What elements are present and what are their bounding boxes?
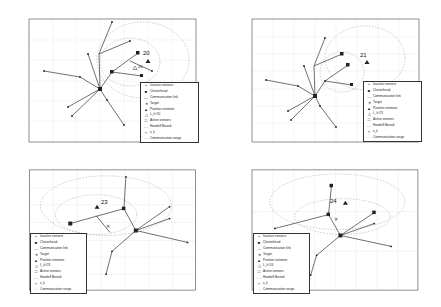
legend-item: ···Communication range (255, 287, 308, 293)
legend-item: ···Communication range (142, 136, 197, 142)
step-label: 20 (143, 50, 150, 56)
step-label: 21 (360, 52, 367, 58)
legend-item: ···Communication range (365, 135, 420, 141)
dotted-icon: ··· (32, 287, 40, 293)
cov-label: 20 (138, 64, 142, 69)
legend: •Inactive sensors ■Clusterhead —Communic… (30, 233, 87, 294)
step-label: 23 (101, 199, 108, 205)
step-label: 24 (330, 198, 337, 204)
dotted-icon: ··· (365, 135, 373, 141)
svg-text:✕: ✕ (334, 217, 338, 222)
legend: •Inactive sensors ■Clusterhead —Communic… (253, 233, 310, 294)
panel-top-right: 21 •Inactive sensors ■Clusterhead —Commu… (220, 0, 440, 153)
panel-bottom-right: ✕ 24 •Inactive sensors ■Clusterhead —Com… (220, 153, 440, 306)
legend: •Inactive sensors ■Clusterhead —Communic… (140, 82, 199, 143)
legend: •Inactive sensors ■Clusterhead —Communic… (363, 81, 422, 142)
svg-text:✕: ✕ (106, 224, 110, 229)
panel-bottom-left: ✕ 23 •Inactive sensors ■Clusterhead —Com… (0, 153, 220, 306)
legend-item: ···Communication range (32, 287, 85, 293)
dotted-icon: ··· (142, 136, 150, 142)
panel-top-left: 20 20 •Inactive sensors ■Clusterhead —Co… (0, 0, 220, 153)
dotted-icon: ··· (255, 287, 263, 293)
